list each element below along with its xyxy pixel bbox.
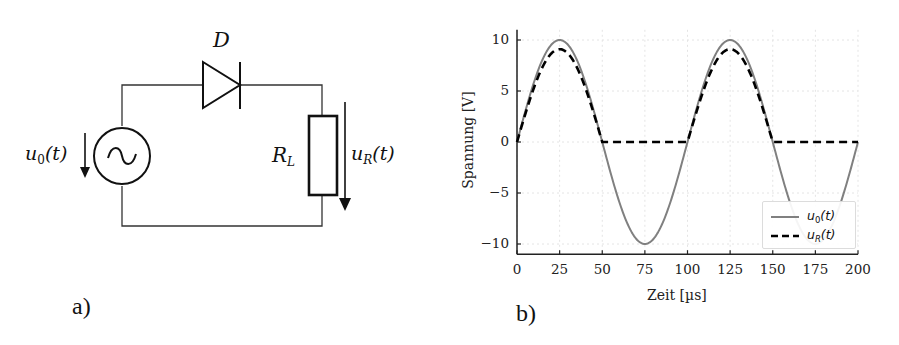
x-tick-label: 25 [540, 261, 580, 277]
x-tick-label: 100 [668, 261, 708, 277]
caption-b: b) [516, 300, 536, 327]
y-tick-label: −10 [465, 235, 509, 251]
x-tick-label: 50 [582, 261, 622, 277]
legend-label-uR: uR(t) [807, 227, 836, 244]
figure: D u0(t) RL uR(t) a) 02550751001251501752… [0, 0, 899, 345]
legend-uR-base: u [807, 227, 815, 242]
x-tick-label: 150 [753, 261, 793, 277]
x-tick-label: 125 [710, 261, 750, 277]
y-axis-label: Spannung [V] [460, 85, 476, 195]
legend-label-u0: u0(t) [807, 208, 835, 225]
voltage-plot [0, 0, 899, 345]
legend-uR-arg: (t) [821, 227, 836, 242]
plot-legend: u0(t) uR(t) [762, 201, 856, 249]
legend-u0-base: u [807, 208, 815, 223]
x-axis-label: Zeit [µs] [647, 287, 707, 303]
x-tick-label: 175 [795, 261, 835, 277]
y-tick-label: 10 [465, 31, 509, 47]
x-tick-label: 200 [838, 261, 878, 277]
legend-u0-arg: (t) [820, 208, 835, 223]
x-tick-label: 75 [625, 261, 665, 277]
legend-item-u0: u0(t) [769, 208, 853, 226]
legend-item-uR: uR(t) [769, 227, 853, 245]
legend-solid-line-icon [769, 208, 801, 226]
x-tick-label: 0 [497, 261, 537, 277]
legend-dashed-line-icon [769, 227, 801, 245]
